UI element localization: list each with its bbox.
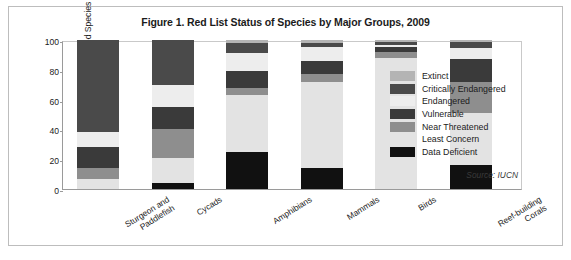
legend-label: Extinct [422,71,448,81]
legend-item[interactable]: Critically Endangered [390,83,520,96]
bar-segment[interactable] [450,48,492,60]
bar-segment[interactable] [226,53,268,71]
bar-segment[interactable] [77,40,119,132]
bar-segment[interactable] [152,129,194,157]
bar-segment[interactable] [152,85,194,107]
bar-segment[interactable] [226,43,268,53]
legend: ExtinctCritically EndangeredEndangeredVu… [390,70,520,158]
legend-item[interactable]: Vulnerable [390,108,520,121]
y-axis-tick-mark [60,191,63,192]
legend-item[interactable]: Near Threatened [390,120,520,133]
legend-swatch [390,71,415,81]
bar-segment[interactable] [301,74,343,81]
legend-item[interactable]: Endangered [390,95,520,108]
legend-label: Vulnerable [422,109,464,119]
bar-segment[interactable] [301,47,343,60]
bar-segment[interactable] [77,147,119,168]
bar[interactable] [77,40,119,189]
legend-item[interactable]: Data Deficient [390,146,520,159]
y-axis-tick-mark [60,102,63,103]
bar-segment[interactable] [152,158,194,183]
y-axis-tick-mark [60,161,63,162]
legend-swatch [390,147,415,157]
bar-segment[interactable] [152,40,194,85]
y-axis-tick-mark [60,42,63,43]
legend-label: Least Concern [422,134,479,144]
y-axis-tick-mark [60,131,63,132]
legend-swatch [390,84,415,94]
bar-segment[interactable] [301,168,343,189]
legend-swatch [390,122,415,132]
y-axis-tick-label: 100 [37,38,59,47]
y-axis-tick-label: 60 [37,98,59,107]
y-axis-tick-label: 20 [37,157,59,166]
legend-swatch [390,134,415,144]
bar[interactable] [226,40,268,189]
legend-label: Critically Endangered [422,84,506,94]
legend-item[interactable]: Extinct [390,70,520,83]
bar-segment[interactable] [77,179,119,189]
bar-segment[interactable] [301,82,343,168]
source-note: Source: IUCN [400,170,518,180]
bar[interactable] [301,40,343,189]
bar-segment[interactable] [226,95,268,152]
legend-swatch [390,96,415,106]
legend-label: Endangered [422,96,470,106]
bar[interactable] [152,40,194,189]
bar-segment[interactable] [301,61,343,74]
bar-segment[interactable] [226,88,268,95]
figure-container: Figure 1. Red List Status of Species by … [0,0,571,260]
bar-segment[interactable] [226,152,268,189]
legend-swatch [390,109,415,119]
y-axis-tick-label: 0 [37,187,59,196]
y-axis-tick-label: 80 [37,68,59,77]
bar-segment[interactable] [77,132,119,147]
y-axis-tick-label: 40 [37,127,59,136]
bar-segment[interactable] [226,71,268,87]
legend-item[interactable]: Least Concern [390,133,520,146]
legend-label: Data Deficient [422,147,477,157]
legend-label: Near Threatened [422,122,488,132]
y-axis-tick-mark [60,72,63,73]
bar-segment[interactable] [77,168,119,178]
bar-segment[interactable] [152,183,194,189]
bar-segment[interactable] [152,107,194,129]
